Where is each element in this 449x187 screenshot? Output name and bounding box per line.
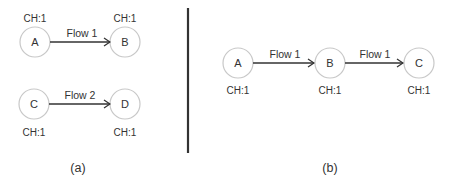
node-b-b-label: B — [326, 57, 333, 69]
node-b-a-channel-label: CH:1 — [227, 85, 250, 96]
flow-2-label: Flow 2 — [65, 89, 96, 101]
node-c-label: C — [30, 98, 38, 110]
panel-a: CH:1 A CH:1 B Flow 1 C CH:1 D CH:1 Flow … — [19, 13, 140, 175]
node-b-channel-label: CH:1 — [114, 13, 137, 24]
node-d-channel-label: CH:1 — [114, 127, 137, 138]
node-b-b-channel-label: CH:1 — [319, 85, 342, 96]
caption-a: (a) — [70, 161, 85, 175]
diagram-canvas: CH:1 A CH:1 B Flow 1 C CH:1 D CH:1 Flow … — [0, 0, 449, 187]
flow-1-label-b-first: Flow 1 — [270, 48, 301, 60]
node-a-label: A — [31, 36, 39, 48]
node-b-a-label: A — [234, 57, 242, 69]
node-b-c-channel-label: CH:1 — [408, 85, 431, 96]
panel-b: A CH:1 B CH:1 C CH:1 Flow 1 Flow 1 (b) — [223, 48, 434, 175]
node-a-channel-label: CH:1 — [24, 13, 47, 24]
node-c-channel-label: CH:1 — [23, 127, 46, 138]
flow-1-label-b-second: Flow 1 — [360, 48, 391, 60]
node-d-label: D — [121, 98, 129, 110]
caption-b: (b) — [322, 161, 337, 175]
node-b-c-label: C — [415, 57, 423, 69]
flow-1-label: Flow 1 — [67, 27, 98, 39]
node-b-label: B — [121, 36, 128, 48]
